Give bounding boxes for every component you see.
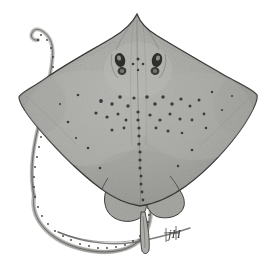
illustration-canvas: jH bbox=[0, 0, 276, 261]
skate-illustration: jH bbox=[0, 0, 276, 261]
signature-text: jH bbox=[166, 226, 182, 241]
tail-tip bbox=[37, 39, 39, 41]
